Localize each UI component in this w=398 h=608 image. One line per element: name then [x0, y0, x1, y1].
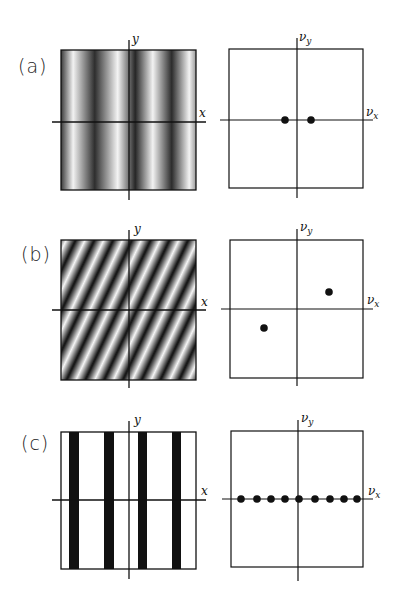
panel-label-b: (b): [21, 243, 51, 265]
nu-x-label-a: νx: [366, 106, 378, 121]
frequency-dot: [281, 116, 289, 124]
frequency-dot: [260, 324, 268, 332]
nu-y-label-c: νy: [301, 412, 313, 427]
x-axis-label-b: x: [201, 296, 208, 308]
nu-x-label-b: νx: [367, 294, 379, 309]
frequency-dot: [325, 288, 333, 296]
x-axis-label-a: x: [199, 107, 206, 119]
panel-c-spatial: [52, 421, 206, 579]
panel-b-frequency: [221, 229, 373, 386]
frequency-dots: [237, 495, 361, 503]
nu-x-label-c: νx: [368, 485, 380, 500]
panel-label-a: (a): [18, 55, 47, 77]
panel-a-frequency: [220, 38, 373, 198]
panel-b-spatial: [40, 220, 220, 400]
frequency-dot: [307, 116, 315, 124]
y-axis-label-c: y: [134, 414, 141, 426]
panel-label-c: (c): [21, 432, 49, 454]
panel-a-spatial: [52, 40, 206, 200]
figure-canvas: [0, 0, 398, 608]
x-axis-label-c: x: [201, 485, 208, 497]
nu-y-label-a: νy: [299, 31, 311, 46]
y-axis-label-b: y: [134, 223, 141, 235]
panel-c-frequency: [222, 420, 373, 581]
nu-y-label-b: νy: [300, 221, 312, 236]
y-axis-label-a: y: [132, 33, 139, 45]
